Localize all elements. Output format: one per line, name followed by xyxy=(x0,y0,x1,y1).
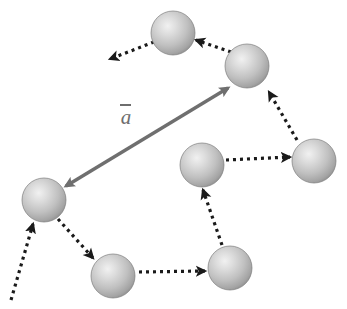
sphere-bottom-left xyxy=(91,254,135,298)
sphere-top xyxy=(151,11,195,55)
arrow-right-to-topright xyxy=(269,92,297,140)
sphere-right xyxy=(292,139,336,183)
arrow-offcanvas-to-left xyxy=(11,224,33,300)
sphere-top-right xyxy=(225,44,269,88)
diagram-canvas xyxy=(0,0,347,309)
arrow-bottommiddle-to-middle xyxy=(203,190,222,245)
sphere-middle xyxy=(180,143,224,187)
sphere-bottom-middle xyxy=(208,246,252,290)
sphere-left xyxy=(22,178,66,222)
arrow-top-to-upperleft xyxy=(110,42,154,59)
arrow-left-to-bottomleft xyxy=(58,219,93,258)
vector-label-text: a xyxy=(120,107,132,128)
vector-label-a-bar: a xyxy=(120,104,132,128)
vector-diagram: a xyxy=(0,0,347,309)
arrow-bottomleft-to-bottommiddle xyxy=(139,271,205,272)
arrow-middle-to-right xyxy=(226,157,290,160)
arrow-topright-to-top xyxy=(196,40,231,52)
sphere-layer xyxy=(22,11,336,298)
